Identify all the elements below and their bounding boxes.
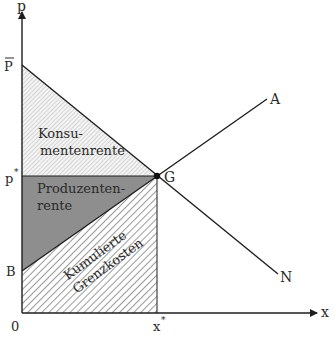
equilibrium-label: G — [164, 169, 175, 185]
svg-text:*: * — [14, 167, 19, 177]
equilibrium-point — [154, 173, 160, 179]
svg-text:mentenrente: mentenrente — [40, 143, 125, 158]
demand-curve-label: N — [280, 269, 292, 285]
svg-text:x: x — [153, 319, 161, 334]
svg-text:P: P — [4, 59, 13, 74]
p-bar-label: P — [4, 58, 14, 74]
svg-text:p: p — [5, 171, 13, 186]
b-label: B — [6, 264, 16, 279]
p-star-label: p * — [5, 167, 19, 186]
origin-label: 0 — [11, 319, 19, 334]
svg-text:*: * — [161, 315, 166, 325]
x-axis-label: x — [321, 304, 329, 320]
svg-text:Produzenten-: Produzenten- — [37, 181, 125, 196]
supply-curve-label: A — [269, 91, 281, 107]
x-star-label: x * — [153, 315, 166, 334]
surplus-diagram: p x 0 P p * B x * A N G Konsu- mentenren… — [0, 0, 335, 347]
y-axis-label: p — [17, 0, 26, 14]
svg-text:rente: rente — [37, 198, 73, 213]
svg-text:Konsu-: Konsu- — [38, 126, 83, 141]
